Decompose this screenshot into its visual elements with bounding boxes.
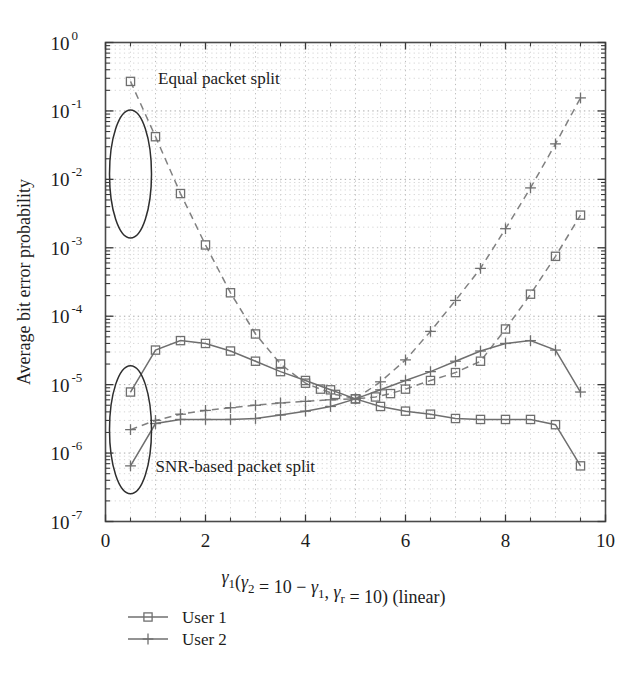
xtick-label: 8 [501, 530, 511, 551]
ytick-label: 10-7 [51, 507, 83, 533]
ytick-mantissa: 10 [51, 238, 70, 259]
xtick-label: 6 [401, 530, 411, 551]
ytick-exponent: -4 [72, 301, 83, 316]
annotation-1: Equal packet split [158, 69, 280, 88]
legend-item-2[interactable]: User 2 [128, 630, 227, 649]
ytick-mantissa: 10 [51, 169, 70, 190]
xtick-label: 2 [201, 530, 211, 551]
legend-item-1[interactable]: User 1 [128, 608, 227, 627]
ytick-mantissa: 10 [51, 101, 70, 122]
ytick-label: 10-1 [51, 96, 83, 122]
ytick-mantissa: 10 [51, 512, 70, 533]
grid-layer [106, 43, 606, 522]
bit-error-probability-chart: 024681010010-110-210-310-410-510-610-7Av… [0, 0, 642, 679]
ytick-exponent: 0 [72, 28, 79, 43]
ytick-label: 100 [51, 28, 79, 54]
ytick-mantissa: 10 [51, 33, 70, 54]
xtick-label: 4 [301, 530, 311, 551]
x-axis-label: γ1(γ2 = 10 − γ1, γr = 10) (linear) [221, 567, 445, 608]
xtick-label: 10 [596, 530, 615, 551]
legend-label: User 1 [182, 608, 227, 627]
ytick-mantissa: 10 [51, 443, 70, 464]
y-axis-label: Average bit error probability [14, 179, 34, 385]
ytick-label: 10-2 [51, 164, 83, 190]
ytick-exponent: -5 [72, 370, 83, 385]
ytick-mantissa: 10 [51, 306, 70, 327]
ytick-label: 10-3 [51, 233, 83, 259]
ytick-mantissa: 10 [51, 375, 70, 396]
ytick-exponent: -1 [72, 96, 83, 111]
ytick-exponent: -3 [72, 233, 83, 248]
legend-label: User 2 [182, 630, 227, 649]
ytick-label: 10-6 [51, 438, 83, 464]
ytick-exponent: -6 [72, 438, 83, 453]
ytick-exponent: -2 [72, 164, 83, 179]
x-axis-label-text: γ1(γ2 = 10 − γ1, γr = 10) (linear) [221, 567, 445, 608]
ytick-exponent: -7 [72, 507, 83, 522]
ytick-label: 10-5 [51, 370, 83, 396]
annotation-2: SNR-based packet split [156, 457, 316, 476]
ytick-label: 10-4 [51, 301, 83, 327]
legend: User 1User 2 [128, 608, 227, 649]
xtick-label: 0 [101, 530, 111, 551]
figure-container: 024681010010-110-210-310-410-510-610-7Av… [0, 0, 642, 679]
